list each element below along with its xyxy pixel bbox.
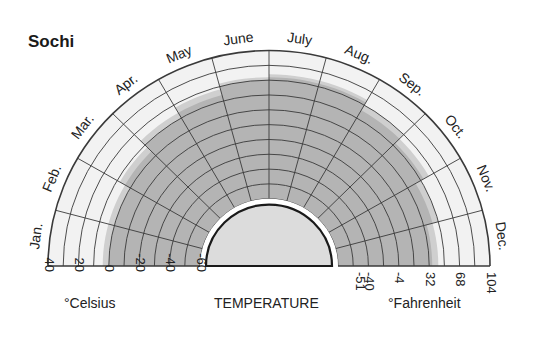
month-label: June	[222, 29, 254, 49]
fahrenheit-tick: 32	[423, 272, 438, 286]
month-label: July	[286, 29, 313, 48]
month-label: Dec.	[492, 221, 512, 252]
month-label: Feb.	[39, 162, 65, 194]
fahrenheit-axis-label: °Fahrenheit	[388, 295, 461, 311]
celsius-tick: -60	[194, 253, 209, 272]
celsius-tick: -40	[163, 253, 178, 272]
fahrenheit-tick: 68	[453, 272, 468, 286]
celsius-tick: 20	[72, 258, 87, 272]
fahrenheit-tick: 104	[484, 272, 499, 294]
month-label: May	[164, 42, 195, 67]
celsius-tick: 40	[42, 258, 57, 272]
celsius-tick: -20	[133, 253, 148, 272]
month-label: Nov.	[474, 162, 499, 194]
celsius-axis-label: °Celsius	[64, 295, 116, 311]
celsius-tick: 0	[102, 265, 117, 272]
month-label: Aug.	[343, 41, 376, 67]
fahrenheit-tick: -4	[392, 272, 407, 284]
polar-temperature-chart: Jan.Feb.Mar.Apr.MayJuneJulyAug.Sep.Oct.N…	[0, 0, 545, 341]
month-label: Jan.	[26, 222, 45, 250]
fahrenheit-tick: -40	[362, 272, 377, 291]
temperature-axis-label: TEMPERATURE	[214, 295, 319, 311]
